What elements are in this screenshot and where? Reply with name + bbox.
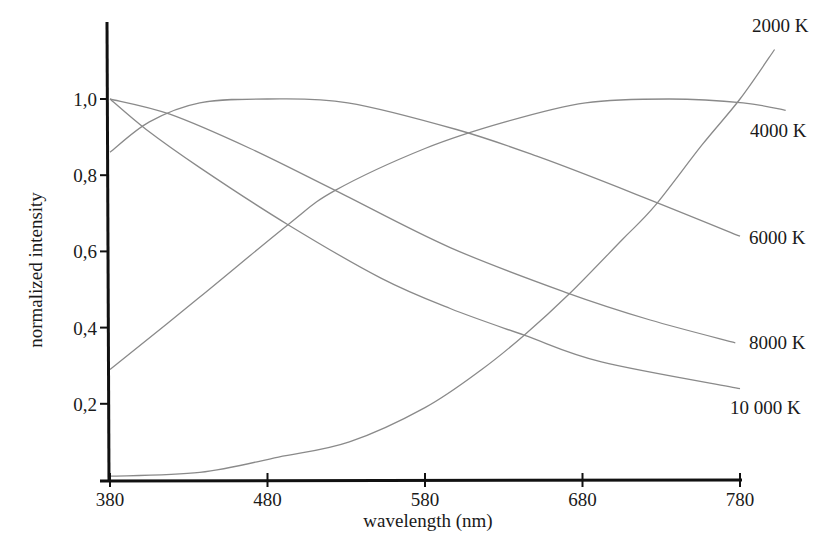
curve-2000k: [110, 50, 775, 477]
x-tick-label: 680: [568, 489, 597, 510]
y-tick-label: 0,2: [73, 394, 97, 415]
x-ticks-group: 380480580680780: [96, 473, 755, 510]
series-label: 10 000 K: [730, 397, 801, 418]
x-axis: [100, 480, 742, 481]
x-tick-label: 480: [253, 489, 282, 510]
y-tick-label: 0,6: [73, 241, 97, 262]
y-ticks-group: 0,20,40,60,81,0: [73, 89, 108, 415]
y-tick-label: 0,4: [73, 318, 97, 339]
y-tick-label: 1,0: [73, 89, 97, 110]
x-tick-label: 580: [411, 489, 440, 510]
series-label: 6000 K: [749, 227, 806, 248]
x-axis-title: wavelength (nm): [363, 510, 492, 532]
series-label: 8000 K: [749, 332, 806, 353]
curves-group: [110, 50, 786, 477]
y-axis-title: normalized intensity: [25, 192, 46, 348]
series-label: 2000 K: [752, 15, 809, 36]
series-label: 4000 K: [750, 120, 807, 141]
y-tick-label: 0,8: [73, 165, 97, 186]
curve-10000k: [110, 99, 740, 389]
series-labels-group: 2000 K4000 K6000 K8000 K10 000 K: [730, 15, 809, 418]
x-tick-label: 780: [726, 489, 755, 510]
x-tick-label: 380: [96, 489, 125, 510]
blackbody-chart: 0,20,40,60,81,0 380480580680780 waveleng…: [0, 0, 833, 557]
